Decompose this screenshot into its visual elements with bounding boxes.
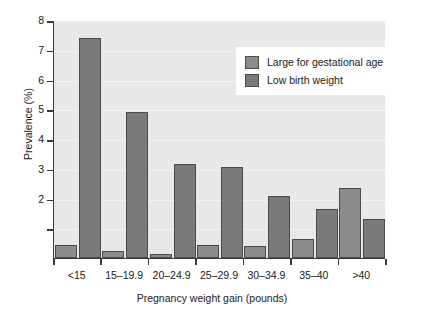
bar xyxy=(126,112,148,258)
x-axis-tick xyxy=(53,259,55,265)
gridline xyxy=(54,21,385,22)
x-axis-tick xyxy=(338,259,340,265)
legend-item: Low birth weight xyxy=(236,71,385,89)
gridline xyxy=(54,200,385,201)
legend-label: Low birth weight xyxy=(267,74,343,86)
gridline xyxy=(54,170,385,171)
y-axis-minor-tick xyxy=(47,229,54,231)
bar xyxy=(102,251,124,258)
y-axis-tick xyxy=(47,81,54,83)
legend-swatch xyxy=(245,74,259,87)
x-axis-title: Pregnancy weight gain (pounds) xyxy=(0,292,424,304)
legend-swatch xyxy=(245,56,259,69)
y-axis-title: Prevalence (%) xyxy=(22,44,34,204)
gridline xyxy=(54,140,385,141)
y-axis-tick-label: 8 xyxy=(4,15,44,26)
legend-item: Large for gestational age xyxy=(236,53,385,71)
bar xyxy=(150,254,172,258)
x-axis-tick xyxy=(243,259,245,265)
x-axis-tick xyxy=(148,259,150,265)
x-axis-tick xyxy=(290,259,292,265)
bar xyxy=(244,246,266,258)
y-axis-tick xyxy=(47,140,54,142)
legend-label: Large for gestational age xyxy=(267,56,383,68)
bar xyxy=(316,209,338,258)
bar xyxy=(174,164,196,258)
x-axis-tick-label: >40 xyxy=(326,269,396,281)
x-axis-tick xyxy=(385,259,387,265)
y-axis-tick xyxy=(47,21,54,23)
y-axis-tick xyxy=(47,110,54,112)
x-axis-tick xyxy=(195,259,197,265)
bar xyxy=(363,219,385,258)
gridline xyxy=(54,110,385,111)
y-axis-tick xyxy=(47,170,54,172)
legend: Large for gestational ageLow birth weigh… xyxy=(236,47,385,95)
bar xyxy=(79,38,101,258)
bar xyxy=(55,245,77,258)
bar xyxy=(292,239,314,258)
y-axis-tick xyxy=(47,51,54,53)
chart-figure: 2345678 Prevalence (%) <1515–19.920–24.9… xyxy=(0,0,424,317)
bar xyxy=(197,245,219,258)
bar xyxy=(339,188,361,258)
x-axis-tick xyxy=(100,259,102,265)
bar xyxy=(268,196,290,258)
y-axis-tick xyxy=(47,200,54,202)
bar xyxy=(221,167,243,258)
